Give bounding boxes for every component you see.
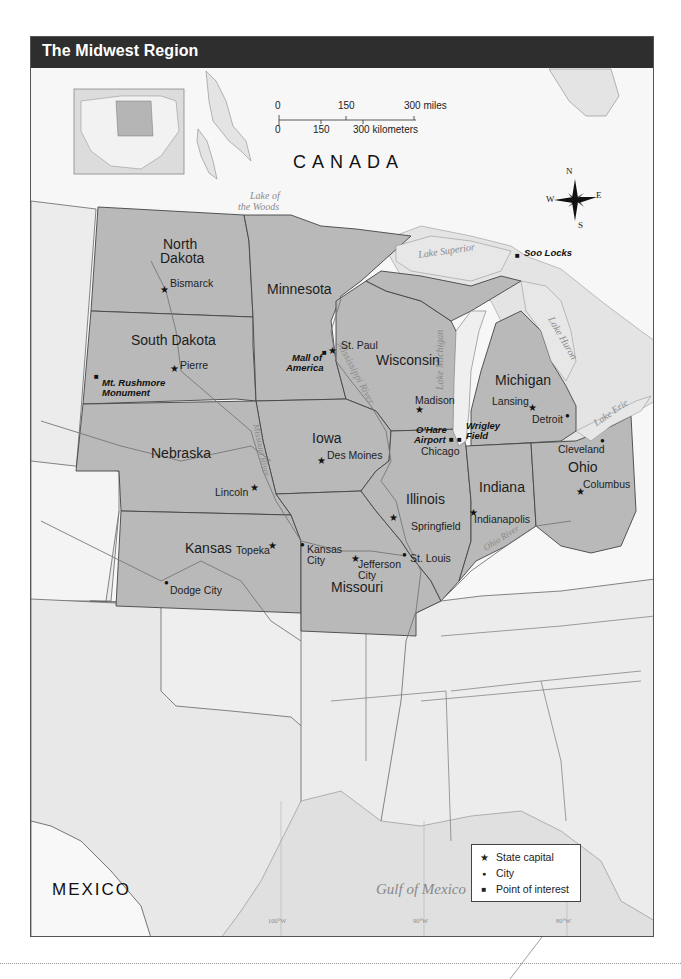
leader-line xyxy=(0,0,681,979)
dotted-rule xyxy=(0,963,681,964)
